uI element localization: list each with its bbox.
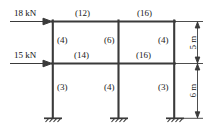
support-middle — [110, 118, 128, 122]
support-right — [166, 118, 184, 122]
roof-beam-right-stiffness-label: (16) — [137, 9, 152, 18]
floor-beam-right-stiffness-label: (16) — [136, 51, 151, 60]
mid-lateral-load-label: 15 kN — [14, 51, 36, 60]
upper-column-middle-stiffness-label: (6) — [104, 36, 115, 45]
dim-arrow-up-bottom — [195, 57, 200, 63]
top-load-arrow-icon — [10, 18, 52, 25]
roof-beam-left-stiffness-label: (12) — [75, 9, 90, 18]
top-lateral-load-label: 18 kN — [14, 9, 36, 18]
upper-column-left-stiffness-label: (4) — [57, 36, 68, 45]
lower-column-middle-stiffness-label: (4) — [104, 83, 115, 92]
mid-load-arrow-icon — [10, 60, 52, 67]
support-left — [44, 118, 62, 122]
dim-arrow-low-bottom — [195, 112, 200, 118]
dim-arrow-low-top — [195, 64, 200, 70]
frame-geometry — [0, 0, 210, 135]
structural-frame-diagram: 18 kN 15 kN (12) (16) (14) (16) (4) (6) … — [0, 0, 210, 135]
lower-column-left-stiffness-label: (3) — [57, 83, 68, 92]
upper-column-right-stiffness-label: (4) — [158, 36, 169, 45]
dim-arrow-up-top — [195, 22, 200, 28]
lower-storey-height-label: 6 m — [189, 80, 198, 102]
upper-storey-height-label: 5 m — [189, 32, 198, 54]
lower-column-right-stiffness-label: (3) — [158, 83, 169, 92]
floor-beam-left-stiffness-label: (14) — [74, 51, 89, 60]
